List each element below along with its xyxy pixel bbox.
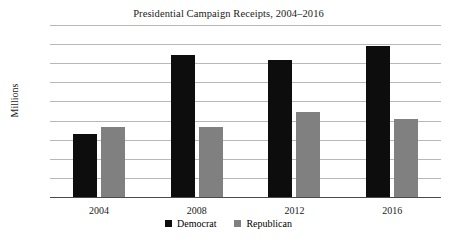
legend-swatch-democrat [165,220,172,227]
x-axis-line [50,197,441,198]
plot-area: 9008007006005004003002001000200420082012… [50,25,441,197]
bar-republican-2012 [296,112,320,197]
legend-label-republican: Republican [246,218,292,229]
legend-swatch-republican [234,220,241,227]
y-axis-title: Millions [9,71,20,131]
x-tick-label: 2012 [264,205,324,216]
legend-label-democrat: Democrat [177,218,216,229]
bar-republican-2008 [199,127,223,197]
bar-democrat-2004 [73,134,97,197]
chart-legend: Democrat Republican [0,218,457,229]
gridline [50,44,441,45]
bar-democrat-2012 [268,60,292,197]
bar-democrat-2016 [366,46,390,197]
x-tick-label: 2016 [362,205,422,216]
bar-republican-2004 [101,127,125,197]
gridline [50,25,441,26]
bar-republican-2016 [394,119,418,197]
bar-democrat-2008 [171,55,195,197]
legend-item-democrat: Democrat [165,218,216,229]
legend-item-republican: Republican [234,218,292,229]
x-tick-label: 2008 [167,205,227,216]
bar-chart: Presidential Campaign Receipts, 2004–201… [0,0,457,245]
x-tick-label: 2004 [69,205,129,216]
chart-title: Presidential Campaign Receipts, 2004–201… [0,8,457,19]
